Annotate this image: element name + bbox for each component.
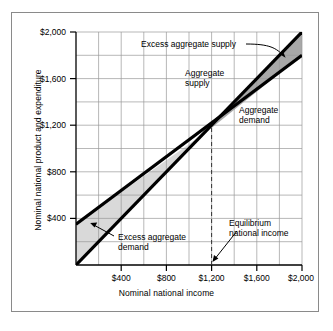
x-tick-label-800: $800 — [142, 273, 190, 283]
aggregate-supply-demand-chart: $2,000 $1,600 $1,200 $800 $400 $400 $800… — [0, 0, 333, 331]
annotation-equilibrium-line1: Equilibrium — [229, 218, 271, 228]
annotation-equilibrium-line2: national income — [229, 228, 289, 238]
x-tick-label-400: $400 — [97, 273, 145, 283]
annotation-aggregate-demand-line2: demand — [239, 115, 270, 125]
annotation-aggregate-demand-line1: Aggregate — [239, 105, 278, 115]
x-tick-label-2000: $2,000 — [277, 273, 325, 283]
annotation-aggregate-supply-line2: supply — [185, 78, 210, 88]
x-tick-label-1600: $1,600 — [233, 273, 281, 283]
y-axis-title: Nominal national product and expenditure — [33, 40, 43, 260]
x-axis-title: Nominal national income — [0, 288, 333, 298]
y-tick-label-2000: $2,000 — [18, 27, 66, 37]
x-tick-label-1200: $1,200 — [188, 273, 236, 283]
annotation-excess-aggregate-demand-line2: demand — [118, 242, 149, 252]
annotation-excess-aggregate-supply: Excess aggregate supply — [141, 39, 236, 49]
annotation-excess-aggregate-demand-line1: Excess aggregate — [118, 232, 186, 242]
annotation-aggregate-supply-line1: Aggregate — [185, 68, 224, 78]
